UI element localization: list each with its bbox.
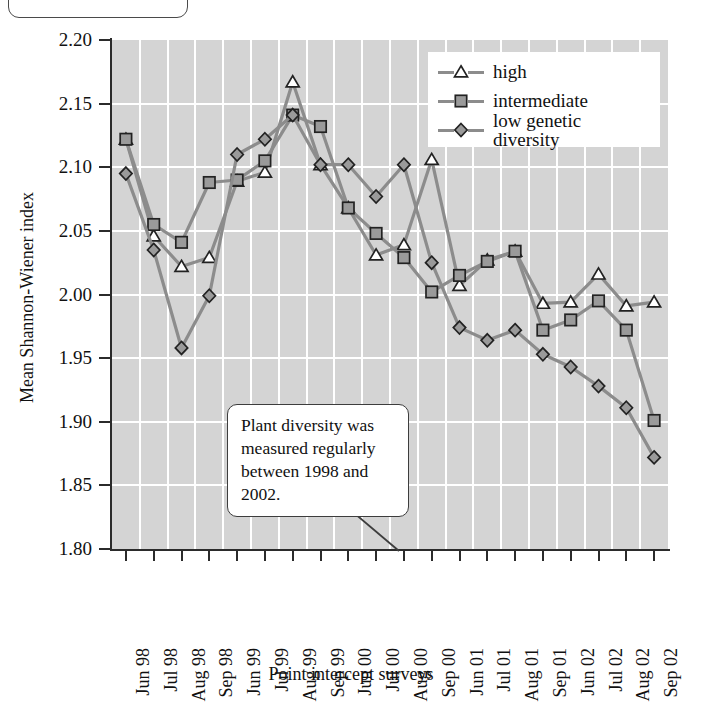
legend-label: intermediate: [493, 91, 588, 110]
legend-item-low-genetic-diversity: low genetic diversity: [438, 115, 652, 144]
legend-label: low genetic diversity: [493, 111, 652, 149]
legend-item-high: high: [438, 57, 652, 86]
series-intermediate: [120, 109, 660, 426]
triangle-marker-icon: [438, 63, 484, 81]
annotation-callout: Plant diversity was measured regularly b…: [227, 404, 409, 517]
diamond-marker-icon: [438, 121, 484, 139]
legend-label: high: [493, 62, 527, 81]
chart-legend: highintermediatelow genetic diversity: [428, 52, 660, 147]
square-marker-icon: [438, 92, 484, 110]
